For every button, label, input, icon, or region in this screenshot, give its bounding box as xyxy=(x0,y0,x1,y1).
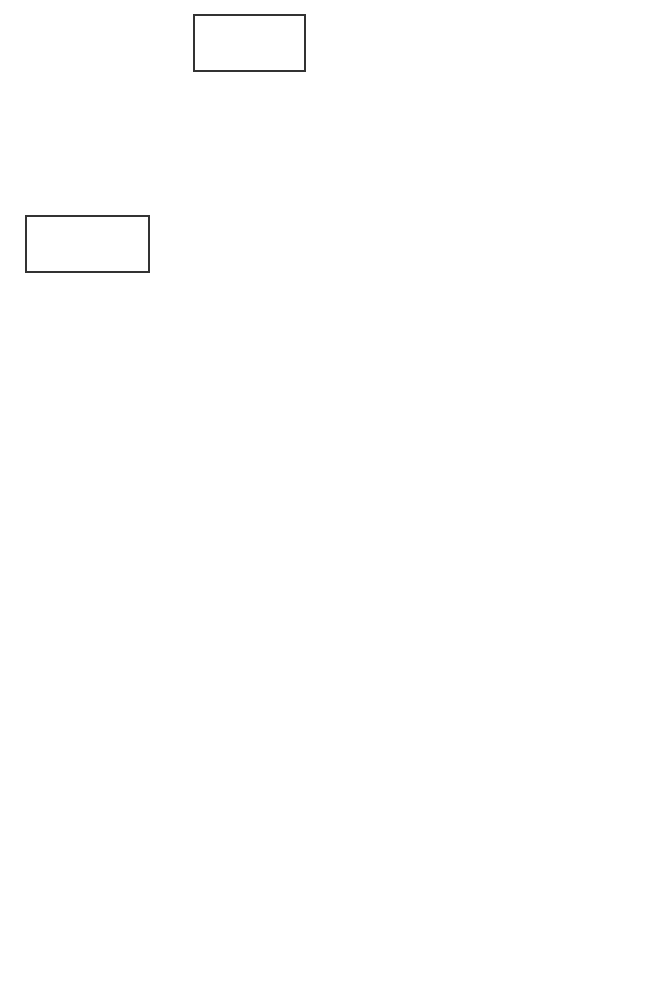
phylogeny-diagram xyxy=(0,0,658,994)
opsin-callout xyxy=(25,215,150,273)
vision-callout xyxy=(193,14,306,72)
